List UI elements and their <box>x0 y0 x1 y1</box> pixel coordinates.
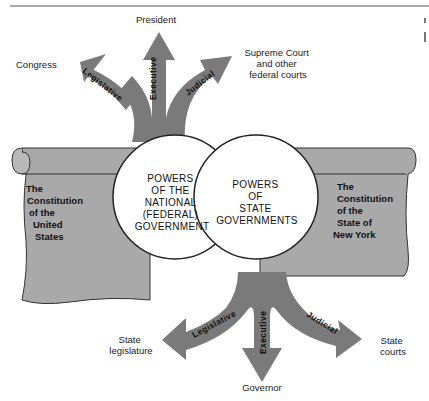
state-executive-label: Executive <box>258 311 268 354</box>
page-edge-mark <box>424 18 426 23</box>
national-legislative-label: Legislative <box>81 66 125 104</box>
national-executive-label: Executive <box>148 57 158 100</box>
state-courts-label: State courts <box>380 335 406 357</box>
governor-label: Governor <box>242 382 282 393</box>
federalism-diagram: POWERS OF THE NATIONAL (FEDERAL) GOVERNM… <box>0 0 429 401</box>
president-label: President <box>136 14 176 25</box>
federal-courts-label: Supreme Court and other federal courts <box>244 47 311 80</box>
page-edge-mark <box>424 32 426 42</box>
congress-label: Congress <box>16 59 57 70</box>
state-legislature-label: State legislature <box>109 334 152 356</box>
